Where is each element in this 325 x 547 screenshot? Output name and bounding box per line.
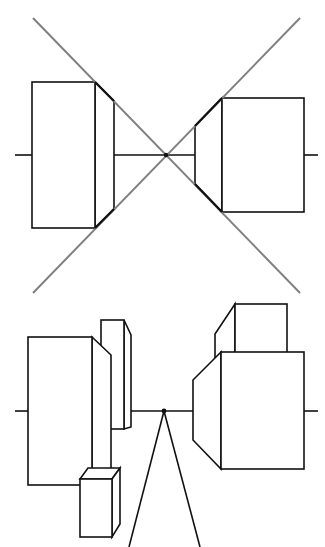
right-box-front [222, 98, 304, 212]
small-box-side [112, 468, 120, 537]
small-box-front [80, 479, 112, 537]
left-box-side [95, 82, 114, 228]
big-left-box-side [92, 337, 111, 485]
vanishing-point-bottom [162, 409, 167, 414]
big-left-box-front [28, 337, 92, 485]
upper-right-box-front [235, 304, 287, 354]
vanishing-point-top [164, 153, 168, 157]
left-box-front [32, 82, 95, 228]
big-right-box-front [221, 352, 304, 469]
tall-box-side [124, 320, 131, 429]
perspective-diagram [0, 0, 325, 547]
